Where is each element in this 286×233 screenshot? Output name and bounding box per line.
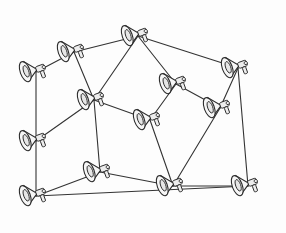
megaphone-icon xyxy=(55,35,87,65)
connection-line xyxy=(173,108,220,186)
megaphone-icon xyxy=(17,124,49,154)
network-illustration xyxy=(0,0,286,233)
connection-line xyxy=(36,186,248,196)
megaphone-nodes xyxy=(17,19,261,209)
megaphone-icon xyxy=(81,155,113,185)
megaphone-icon xyxy=(157,67,189,97)
megaphone-icon xyxy=(17,179,49,209)
connection-line xyxy=(238,68,248,186)
connection-line xyxy=(94,100,100,172)
megaphone-icon xyxy=(229,169,261,199)
megaphone-icon xyxy=(119,19,151,49)
megaphone-icon xyxy=(131,103,163,133)
megaphone-icon xyxy=(17,55,49,85)
megaphone-icon xyxy=(201,91,233,121)
megaphone-icon xyxy=(75,83,107,113)
megaphone-network-graph xyxy=(0,0,286,233)
